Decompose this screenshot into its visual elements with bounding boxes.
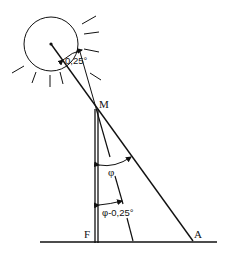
- point-f-label: F: [84, 228, 90, 240]
- ray-edge-line-dashed-2: [127, 218, 133, 241]
- ray-edge-line-dashed-1: [115, 176, 123, 204]
- pole: [95, 109, 98, 243]
- point-m-label: M: [99, 98, 109, 110]
- phi-angle-arc: [99, 157, 131, 166]
- sun-angle-label: 0,25°: [65, 55, 87, 66]
- phi-reduced-angle-arc: [99, 201, 122, 205]
- phi-label: φ: [108, 166, 114, 178]
- phi-reduced-label: φ-0,25°: [102, 207, 134, 218]
- sun-shadow-diagram: 0,25° φ φ-0,25° M F A: [0, 0, 229, 254]
- point-a-label: A: [194, 228, 202, 240]
